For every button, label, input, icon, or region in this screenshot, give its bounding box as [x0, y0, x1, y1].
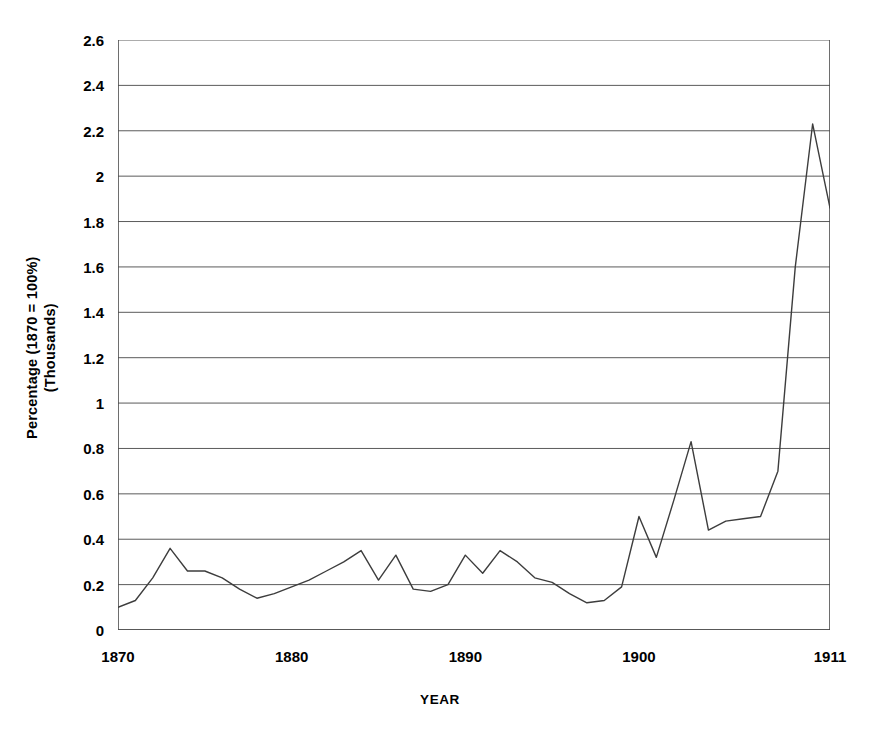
data-series-line — [118, 124, 830, 607]
y-axis-tick-label: 1.2 — [46, 349, 104, 366]
y-axis-tick-label: 2.4 — [46, 77, 104, 94]
y-axis-tick-label: 0.2 — [46, 576, 104, 593]
y-axis-title-line1: Percentage (1870 = 100%) — [24, 256, 40, 439]
gridlines — [118, 40, 830, 630]
x-axis-tick-label: 1880 — [275, 648, 308, 665]
y-axis-tick-label: 1 — [46, 395, 104, 412]
y-axis-tick-label: 2 — [46, 168, 104, 185]
y-axis-tick-label: 0.4 — [46, 531, 104, 548]
x-axis-tick-label: 1911 — [814, 648, 847, 665]
chart-figure: Percentage (1870 = 100%) (Thousands) 2.6… — [0, 0, 880, 744]
axis-lines — [118, 40, 830, 630]
x-axis-tick-label: 1900 — [622, 648, 655, 665]
y-axis-tick-label: 1.6 — [46, 258, 104, 275]
y-axis-tick-labels: 2.62.42.221.81.61.41.210.80.60.40.20 — [46, 0, 104, 744]
x-axis-tick-label: 1890 — [449, 648, 482, 665]
x-axis-title: YEAR — [0, 692, 880, 707]
y-axis-tick-label: 1.8 — [46, 213, 104, 230]
x-axis-tick-label: 1870 — [101, 648, 134, 665]
plot-area — [118, 40, 830, 630]
y-axis-tick-label: 1.4 — [46, 304, 104, 321]
y-axis-tick-label: 0 — [46, 622, 104, 639]
chart-plot-svg — [118, 40, 830, 630]
x-axis-tick-labels: 18701880189019001911 — [0, 648, 880, 678]
y-axis-tick-label: 0.6 — [46, 485, 104, 502]
y-axis-tick-label: 0.8 — [46, 440, 104, 457]
y-axis-tick-label: 2.6 — [46, 32, 104, 49]
y-axis-tick-label: 2.2 — [46, 122, 104, 139]
